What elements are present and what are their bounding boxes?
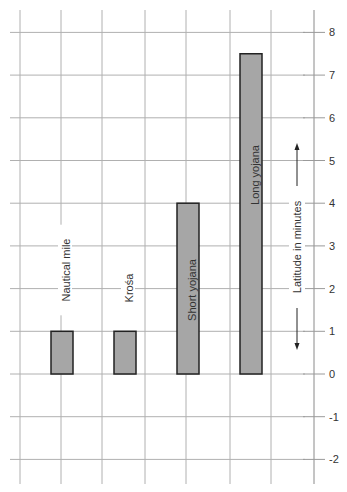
y-tick-label: 8 xyxy=(329,26,335,38)
y-tick-label: 4 xyxy=(329,197,335,209)
arrow-up-icon xyxy=(295,143,300,150)
y-tick-label: 2 xyxy=(329,283,335,295)
y-tick-label: 1 xyxy=(329,325,335,337)
y-tick-label: 5 xyxy=(329,155,335,167)
category-label: Krośa xyxy=(123,273,135,303)
y-axis-ticks: 876543210-1-2 xyxy=(303,26,339,465)
y-axis-label-group: Latitude in minutes xyxy=(289,143,305,350)
y-tick-label: 0 xyxy=(329,368,335,380)
y-tick-label: 6 xyxy=(329,112,335,124)
category-label: Short yojana xyxy=(186,258,198,321)
bar-long-yojana xyxy=(240,54,262,374)
y-tick-label: -2 xyxy=(329,453,339,465)
category-labels: Nautical mileKrośaShort yojanaLong yojan… xyxy=(58,144,261,321)
y-tick-label: -1 xyxy=(329,411,339,423)
bar-kro-a xyxy=(114,331,136,374)
bar-chart: 876543210-1-2 Nautical mileKrośaShort yo… xyxy=(0,0,347,492)
bar-nautical-mile xyxy=(51,331,73,374)
category-label: Long yojana xyxy=(249,144,261,205)
y-tick-label: 3 xyxy=(329,240,335,252)
y-axis-label: Latitude in minutes xyxy=(291,200,303,293)
arrow-down-icon xyxy=(295,343,300,350)
y-tick-label: 7 xyxy=(329,69,335,81)
category-label: Nautical mile xyxy=(60,239,72,302)
